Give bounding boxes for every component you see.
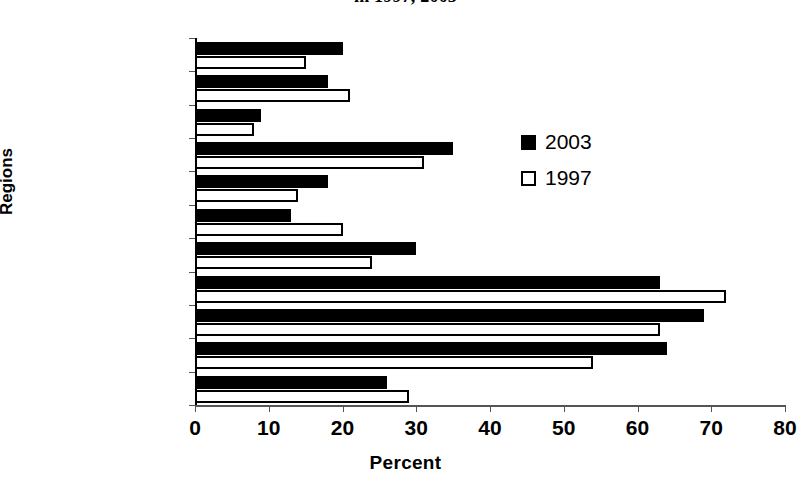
bar-1997-upper-west bbox=[195, 356, 593, 369]
bar-row: Volta bbox=[195, 171, 785, 204]
legend-item-2003: 2003 bbox=[521, 131, 592, 153]
bar-2003-central bbox=[195, 75, 328, 88]
x-tick-30 bbox=[416, 405, 417, 412]
bar-2003-western bbox=[195, 42, 343, 55]
bar-1997-northern bbox=[195, 290, 726, 303]
bar-2003-northern bbox=[195, 276, 660, 289]
chart-title-line-2: in 1997, 2003 bbox=[0, 0, 811, 6]
plot-area: 01020304050607080 WesternCentralGt. Accr… bbox=[195, 38, 785, 405]
bar-1997-eastern bbox=[195, 156, 424, 169]
hollow-square-icon bbox=[521, 171, 536, 186]
legend-label-2003: 2003 bbox=[545, 131, 592, 153]
bar-1997-western bbox=[195, 56, 306, 69]
x-tick-label-70: 70 bbox=[700, 416, 723, 440]
bar-1997-brong-ahafo bbox=[195, 256, 372, 269]
bar-1997-central bbox=[195, 89, 350, 102]
legend-label-1997: 1997 bbox=[545, 167, 592, 189]
x-tick-label-60: 60 bbox=[626, 416, 649, 440]
bar-row: Northern bbox=[195, 272, 785, 305]
chart-title: in 1997, 2003 bbox=[0, 0, 811, 6]
x-tick-label-40: 40 bbox=[478, 416, 501, 440]
x-tick-label-50: 50 bbox=[552, 416, 575, 440]
bar-2003-gt-accra bbox=[195, 109, 261, 122]
x-tick-60 bbox=[638, 405, 639, 412]
x-tick-10 bbox=[269, 405, 270, 412]
bar-1997-ashanti bbox=[195, 223, 343, 236]
x-tick-70 bbox=[711, 405, 712, 412]
bar-chart: in 1997, 2003 Regions 01020304050607080 … bbox=[0, 0, 811, 491]
bar-row: Western bbox=[195, 38, 785, 71]
filled-square-icon bbox=[521, 135, 536, 150]
x-axis-title: Percent bbox=[0, 452, 811, 474]
x-tick-label-20: 20 bbox=[331, 416, 354, 440]
bar-row: Gt. Accra bbox=[195, 105, 785, 138]
bar-2003-brong-ahafo bbox=[195, 242, 416, 255]
x-tick-50 bbox=[564, 405, 565, 412]
bar-row: Ashanti bbox=[195, 205, 785, 238]
x-tick-label-0: 0 bbox=[189, 416, 201, 440]
bar-row: Ghana bbox=[195, 372, 785, 405]
bar-row: Central bbox=[195, 71, 785, 104]
bar-1997-upper-east bbox=[195, 323, 660, 336]
bar-1997-volta bbox=[195, 189, 298, 202]
y-axis-title: Regions bbox=[0, 148, 17, 215]
legend-item-1997: 1997 bbox=[521, 167, 592, 189]
x-tick-40 bbox=[490, 405, 491, 412]
x-tick-label-30: 30 bbox=[405, 416, 428, 440]
x-tick-label-80: 80 bbox=[773, 416, 796, 440]
bar-2003-upper-west bbox=[195, 342, 667, 355]
bar-row: Upper East bbox=[195, 305, 785, 338]
x-tick-20 bbox=[343, 405, 344, 412]
bar-1997-gt-accra bbox=[195, 123, 254, 136]
bar-2003-ghana bbox=[195, 376, 387, 389]
x-tick-80 bbox=[785, 405, 786, 412]
x-tick-0 bbox=[195, 405, 196, 412]
bar-2003-eastern bbox=[195, 142, 453, 155]
bar-row: Upper West bbox=[195, 338, 785, 371]
bar-1997-ghana bbox=[195, 390, 409, 403]
bar-2003-volta bbox=[195, 175, 328, 188]
x-tick-label-10: 10 bbox=[257, 416, 280, 440]
bar-row: Brong Ahafo bbox=[195, 238, 785, 271]
bar-row: Eastern bbox=[195, 138, 785, 171]
y-tick-end bbox=[189, 405, 195, 406]
legend: 2003 1997 bbox=[521, 131, 592, 203]
bar-2003-ashanti bbox=[195, 209, 291, 222]
bar-2003-upper-east bbox=[195, 309, 704, 322]
